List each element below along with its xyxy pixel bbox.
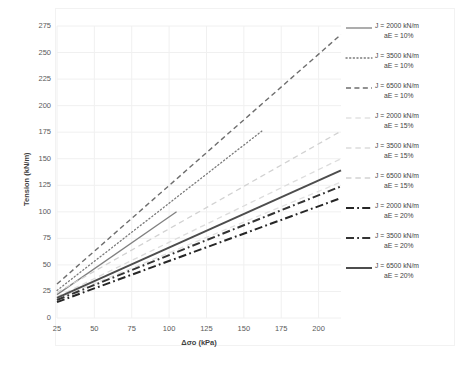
y-tick-label: 225: [25, 74, 51, 83]
legend-label-line1: J = 3500 kN/m: [375, 141, 419, 151]
legend-label-line2: aE = 20%: [375, 271, 419, 281]
legend-entry-label: J = 6500 kN/maE = 20%: [375, 260, 419, 280]
legend-line-swatch: [345, 50, 375, 61]
legend-label-line1: J = 2000 kN/m: [375, 201, 419, 211]
legend-entry-label: J = 3500 kN/maE = 20%: [375, 230, 419, 250]
y-tick-label: 175: [25, 127, 51, 136]
legend-label-line1: J = 6500 kN/m: [375, 261, 419, 271]
series-line-3: [57, 34, 341, 284]
y-tick-label: 50: [25, 260, 51, 269]
chart-figure: 0255075100125150175200225250275 25507510…: [0, 0, 461, 370]
legend-label-line2: aE = 10%: [375, 91, 419, 101]
series-line-2: [57, 131, 262, 290]
series-line-8: [57, 186, 341, 300]
legend-entry[interactable]: J = 3500 kN/maE = 10%: [345, 50, 461, 80]
legend-label-line2: aE = 15%: [375, 151, 419, 161]
series-line-4: [57, 182, 341, 299]
legend-entry-label: J = 2000 kN/maE = 15%: [375, 110, 419, 130]
legend-label-line1: J = 2000 kN/m: [375, 111, 419, 121]
legend-label-line1: J = 3500 kN/m: [375, 231, 419, 241]
y-tick-label: 275: [25, 21, 51, 30]
gridlines: [57, 26, 341, 318]
legend-label-line2: aE = 20%: [375, 211, 419, 221]
x-tick-label: 75: [117, 324, 147, 333]
legend-line-swatch: [345, 170, 375, 181]
legend-line-swatch: [345, 200, 375, 211]
y-tick-label: 25: [25, 286, 51, 295]
y-tick-label: 200: [25, 101, 51, 110]
legend-line-swatch: [345, 110, 375, 121]
legend-line-swatch: [345, 80, 375, 91]
x-tick-label: 25: [42, 324, 72, 333]
x-tick-label: 150: [229, 324, 259, 333]
legend-entry[interactable]: J = 6500 kN/maE = 10%: [345, 80, 461, 110]
legend-label-line1: J = 6500 kN/m: [375, 171, 419, 181]
legend-line-swatch: [345, 230, 375, 241]
legend-line-swatch: [345, 260, 375, 271]
legend-label-line1: J = 6500 kN/m: [375, 81, 419, 91]
chart-legend: J = 2000 kN/maE = 10%J = 3500 kN/maE = 1…: [345, 20, 461, 290]
legend-entry[interactable]: J = 2000 kN/maE = 20%: [345, 200, 461, 230]
legend-label-line2: aE = 15%: [375, 181, 419, 191]
legend-line-swatch: [345, 140, 375, 151]
x-tick-label: 50: [79, 324, 109, 333]
legend-entry[interactable]: J = 2000 kN/maE = 15%: [345, 110, 461, 140]
series-line-9: [57, 170, 341, 297]
legend-entry-label: J = 6500 kN/maE = 15%: [375, 170, 419, 190]
legend-label-line2: aE = 20%: [375, 241, 419, 251]
legend-entry[interactable]: J = 2000 kN/maE = 10%: [345, 20, 461, 50]
legend-label-line2: aE = 10%: [375, 61, 419, 71]
legend-label-line2: aE = 10%: [375, 31, 419, 41]
y-tick-label: 0: [25, 313, 51, 322]
legend-entry-label: J = 3500 kN/maE = 10%: [375, 50, 419, 70]
legend-entry[interactable]: J = 6500 kN/maE = 15%: [345, 170, 461, 200]
legend-entry-label: J = 3500 kN/maE = 15%: [375, 140, 419, 160]
series-line-5: [57, 159, 341, 297]
y-tick-label: 100: [25, 207, 51, 216]
x-tick-label: 100: [154, 324, 184, 333]
y-axis-label: Tension (kN/m): [22, 152, 31, 206]
legend-entry[interactable]: J = 3500 kN/maE = 15%: [345, 140, 461, 170]
x-tick-label: 200: [304, 324, 334, 333]
y-tick-label: 250: [25, 48, 51, 57]
legend-entry[interactable]: J = 3500 kN/maE = 20%: [345, 230, 461, 260]
legend-label-line1: J = 3500 kN/m: [375, 51, 419, 61]
data-lines: [57, 34, 341, 302]
y-tick-label: 75: [25, 233, 51, 242]
x-tick-label: 175: [266, 324, 296, 333]
series-line-7: [57, 198, 341, 302]
x-axis-label: Δσo (kPa): [49, 338, 349, 347]
x-tick-label: 125: [191, 324, 221, 333]
legend-entry[interactable]: J = 6500 kN/maE = 20%: [345, 260, 461, 290]
legend-label-line2: aE = 15%: [375, 121, 419, 131]
legend-line-swatch: [345, 20, 375, 31]
legend-entry-label: J = 2000 kN/maE = 20%: [375, 200, 419, 220]
legend-entry-label: J = 2000 kN/maE = 10%: [375, 20, 419, 40]
legend-entry-label: J = 6500 kN/maE = 10%: [375, 80, 419, 100]
legend-label-line1: J = 2000 kN/m: [375, 21, 419, 31]
